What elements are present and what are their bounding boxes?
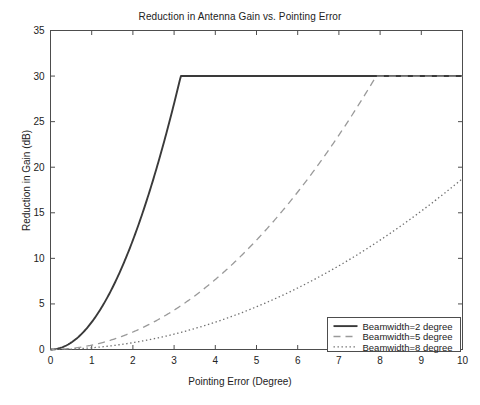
y-tick-label: 0 [39, 344, 45, 355]
plot-area: 012345678910 05101520253035 Beamwidth=2 … [0, 0, 480, 405]
x-tick-label: 6 [295, 355, 301, 366]
y-tick-label: 20 [33, 162, 45, 173]
x-tick-label: 10 [457, 355, 469, 366]
y-axis-label: Reduction in Gain (dB) [21, 91, 32, 271]
axis-ticks [51, 31, 463, 350]
x-tick-label: 1 [89, 355, 95, 366]
data-series-group [51, 76, 463, 349]
figure-canvas: Reduction in Antenna Gain vs. Pointing E… [0, 0, 480, 405]
y-tick-label: 15 [33, 207, 45, 218]
x-tick-labels: 012345678910 [48, 355, 469, 366]
y-tick-label: 5 [39, 298, 45, 309]
series-line-1 [51, 76, 463, 349]
y-tick-label: 30 [33, 71, 45, 82]
x-tick-label: 4 [213, 355, 219, 366]
x-tick-label: 2 [130, 355, 136, 366]
axis-frame [51, 31, 463, 350]
y-tick-label: 35 [33, 25, 45, 36]
x-tick-label: 9 [419, 355, 425, 366]
x-tick-label: 7 [336, 355, 342, 366]
legend-label-2: Beamwidth=5 degree [363, 331, 453, 342]
legend-label-3: Beamwidth=8 degree [363, 342, 453, 353]
y-tick-label: 10 [33, 253, 45, 264]
x-tick-label: 3 [171, 355, 177, 366]
x-tick-label: 0 [48, 355, 54, 366]
x-tick-label: 8 [377, 355, 383, 366]
y-tick-labels: 05101520253035 [33, 25, 45, 355]
y-tick-label: 25 [33, 116, 45, 127]
x-tick-label: 5 [254, 355, 260, 366]
x-axis-label: Pointing Error (Degree) [0, 376, 480, 387]
legend[interactable]: Beamwidth=2 degreeBeamwidth=5 degreeBeam… [328, 318, 461, 353]
legend-label-1: Beamwidth=2 degree [363, 321, 453, 332]
series-line-2 [51, 76, 463, 349]
